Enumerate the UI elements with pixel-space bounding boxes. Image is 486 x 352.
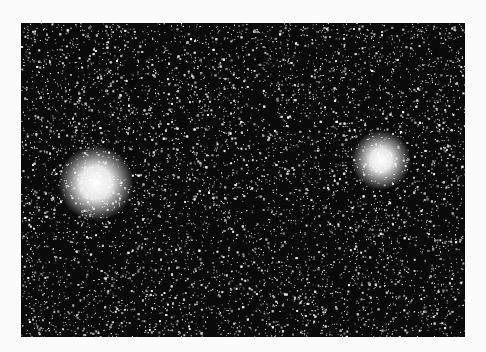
star-field-photo [21, 23, 465, 337]
star-field-canvas [21, 23, 465, 337]
